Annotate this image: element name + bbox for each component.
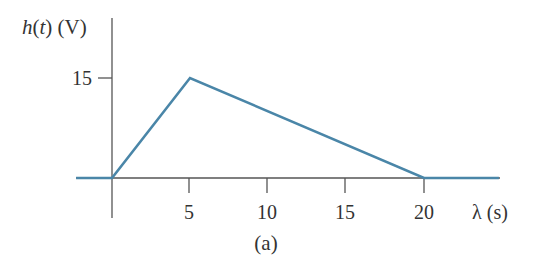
y-tick-label-15: 15 bbox=[72, 67, 92, 89]
x-axis-label: λ (s) bbox=[472, 201, 508, 224]
chart: 15 5 10 15 20 λ (s) h(t) (V) (a) bbox=[0, 0, 534, 277]
x-ticks bbox=[189, 178, 424, 193]
series-line bbox=[76, 78, 499, 178]
x-tick-label-20: 20 bbox=[414, 201, 434, 223]
y-label-func: h bbox=[22, 15, 33, 39]
x-tick-label-10: 10 bbox=[257, 201, 277, 223]
y-axis-label: h(t) (V) bbox=[22, 15, 87, 39]
x-tick-label-5: 5 bbox=[184, 201, 194, 223]
y-label-unit: (V) bbox=[58, 15, 87, 39]
figure-caption: (a) bbox=[254, 231, 277, 255]
x-tick-label-15: 15 bbox=[335, 201, 355, 223]
